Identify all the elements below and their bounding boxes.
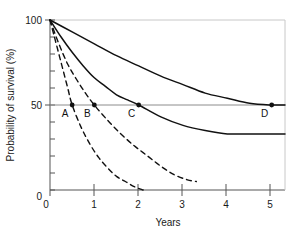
point-label-a: A [62,108,69,119]
point-label-c: C [128,108,135,119]
marker-point-a [70,103,75,108]
x-tick-label-3: 3 [179,199,185,210]
marker-point-d [269,103,274,108]
survival-curve-figure: 100 50 0 0 1 2 3 4 5 Years Probability o… [0,0,292,232]
x-tick-label-2: 2 [135,199,141,210]
chart-background [0,0,292,232]
marker-point-c [136,103,141,108]
x-tick-label-5: 5 [267,199,273,210]
y-axis-title: Probability of survival (%) [5,49,16,162]
x-axis-title: Years [155,217,180,228]
x-tick-label-0: 0 [43,199,49,210]
survival-chart: 100 50 0 0 1 2 3 4 5 Years Probability o… [0,0,292,232]
point-label-d: D [261,108,268,119]
y-tick-label-100: 100 [25,15,42,26]
point-label-b: B [84,108,91,119]
marker-point-b [92,103,97,108]
y-tick-label-50: 50 [31,100,43,111]
y-tick-label-0: 0 [36,191,42,202]
x-tick-label-1: 1 [91,199,97,210]
x-tick-label-4: 4 [223,199,229,210]
